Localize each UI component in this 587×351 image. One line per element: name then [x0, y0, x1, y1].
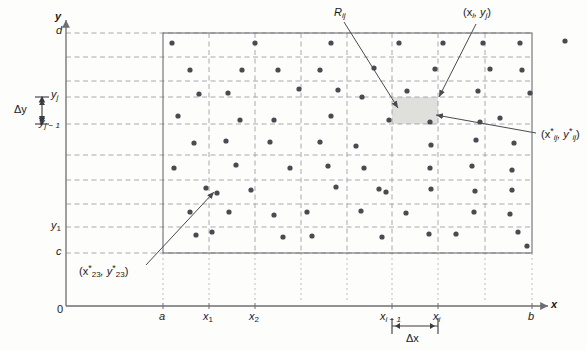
x-tick-xi-1: xi − 1	[380, 311, 401, 322]
corner-point-label: (xi, yj)	[463, 7, 491, 18]
sample-point-dot	[333, 184, 338, 189]
sample-point-label: (x*ij, y*ij)	[541, 129, 580, 140]
sample-point-dot	[328, 113, 333, 118]
sample-point-dot	[248, 187, 253, 192]
leader-line-sample-point-23	[146, 192, 214, 265]
sample-point-dot	[226, 209, 231, 214]
delta-x-label: Δx	[406, 333, 419, 344]
sample-point-dot	[209, 229, 214, 234]
sample-point-dot	[432, 66, 437, 71]
sample-point-dot	[469, 163, 474, 168]
sample-point-dot	[203, 185, 208, 190]
sample-point-dot	[358, 208, 363, 213]
sample-point-dot	[317, 139, 322, 144]
sample-point-dot	[487, 66, 492, 71]
sample-point-dot	[169, 40, 174, 45]
sample-point-dot	[335, 87, 340, 92]
sample-point-dot	[252, 40, 257, 45]
sample-point-dots	[169, 38, 567, 248]
sample-point-dot	[280, 234, 285, 239]
sample-point-dot	[519, 67, 524, 72]
origin-label: 0	[57, 304, 63, 315]
x-tick-xi: xi	[433, 311, 440, 322]
y-tick-yj: yj	[51, 89, 58, 100]
sample-point-dot	[404, 88, 409, 93]
sample-point-dot	[376, 186, 381, 191]
sample-point-dot	[233, 162, 238, 167]
sample-point-dot	[453, 231, 458, 236]
sample-point-dot	[287, 165, 292, 170]
leader-line-corner-point	[439, 24, 476, 97]
sample-point-dot	[225, 90, 230, 95]
sample-point-dot	[328, 40, 333, 45]
delta-y-label: Δy	[14, 104, 27, 115]
sample-point-dot	[361, 165, 366, 170]
x-axis-label: x	[551, 299, 557, 310]
x-tick-x2: x2	[249, 311, 259, 322]
sample-point-dot	[271, 212, 276, 217]
x-tick-a: a	[159, 311, 165, 322]
sample-point-dot	[509, 187, 514, 192]
sample-point-dot	[309, 233, 314, 238]
sample-point-dot	[325, 163, 330, 168]
sample-point-dot	[214, 190, 219, 195]
y-axis-label: y	[55, 11, 61, 22]
sample-point-dot	[175, 113, 180, 118]
sample-point-dot	[353, 143, 358, 148]
sample-point-dot	[223, 138, 228, 143]
riemann-partition-figure: y x 0 d yj yj − 1 y1 c a x1 x2 xi − 1 xi…	[0, 0, 587, 351]
figure-graphics	[0, 0, 587, 351]
y-tick-y1: y1	[51, 220, 61, 231]
sample-point-dot	[477, 119, 482, 124]
sample-point-dot	[473, 137, 478, 142]
sample-point-dot	[507, 211, 512, 216]
sample-point-dot	[383, 189, 388, 194]
x-tick-x1: x1	[203, 311, 213, 322]
sample-point-dot	[304, 209, 309, 214]
sample-point-dot	[509, 167, 514, 172]
subrectangle-label: Rij	[334, 7, 346, 18]
sample-point-dot	[187, 209, 192, 214]
sample-point-dot	[267, 139, 272, 144]
sample-point-dot	[428, 142, 433, 147]
sample-point-dot	[386, 117, 391, 122]
sample-point-dot	[524, 243, 529, 248]
sample-point-dot	[396, 40, 401, 45]
sample-point-dot	[191, 140, 196, 145]
sample-point-dot	[497, 115, 502, 120]
leader-line-rij	[344, 22, 398, 108]
sample-point-dot	[171, 165, 176, 170]
sample-point-dot	[471, 209, 476, 214]
sample-point-dot	[237, 117, 242, 122]
sample-point-dot	[271, 117, 276, 122]
sample-point-dot	[379, 234, 384, 239]
vertical-drop-lines	[163, 253, 532, 300]
y-tick-d: d	[56, 25, 62, 36]
sample-point-dot	[428, 186, 433, 191]
sample-point-dot	[359, 94, 364, 99]
plot-region-border	[163, 33, 532, 253]
sample-point-dot	[480, 40, 485, 45]
sample-point-dot	[427, 119, 432, 124]
vertical-grid-lines	[209, 33, 485, 253]
y-tick-yj-1: yj − 1	[39, 117, 60, 128]
sample-point-dot	[517, 40, 522, 45]
sample-point-dot	[296, 86, 301, 91]
sample-point-23-label: (x*23, y*23)	[79, 266, 128, 277]
sample-point-dot	[187, 67, 192, 72]
sample-point-dot	[403, 210, 408, 215]
sample-point-dot	[275, 67, 280, 72]
sample-point-dot	[239, 67, 244, 72]
sample-point-dot	[440, 40, 445, 45]
sample-point-dot	[562, 38, 567, 43]
y-tick-c: c	[56, 246, 62, 257]
sample-point-dot	[475, 88, 480, 93]
sample-point-dot	[196, 91, 201, 96]
sample-point-dot	[511, 140, 516, 145]
x-tick-b: b	[528, 311, 534, 322]
sample-point-dot	[527, 90, 532, 95]
sample-point-dot	[515, 229, 520, 234]
sample-point-dot	[371, 65, 376, 70]
sample-point-dot	[193, 232, 198, 237]
sample-point-dot	[426, 231, 431, 236]
